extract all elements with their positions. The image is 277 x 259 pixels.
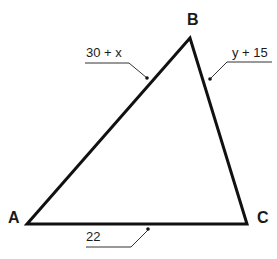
- side-ab-label: 30 + x: [86, 45, 122, 60]
- vertex-label-a: A: [8, 209, 20, 226]
- side-ac-callout: 22: [86, 227, 150, 247]
- side-bc-leader: [210, 62, 272, 79]
- side-ac-label: 22: [86, 229, 100, 244]
- side-ab-callout: 30 + x: [85, 45, 149, 80]
- side-ac-leader-dot: [146, 227, 150, 231]
- side-ab-leader: [85, 63, 147, 78]
- side-ab-leader-dot: [145, 76, 149, 80]
- triangle-abc: [27, 38, 247, 224]
- triangle-diagram: A B C 30 + x y + 15 22: [0, 0, 277, 259]
- side-bc-callout: y + 15: [208, 45, 272, 81]
- vertex-label-c: C: [257, 209, 269, 226]
- side-bc-label: y + 15: [232, 45, 268, 60]
- vertex-label-b: B: [187, 11, 199, 28]
- side-bc-leader-dot: [208, 77, 212, 81]
